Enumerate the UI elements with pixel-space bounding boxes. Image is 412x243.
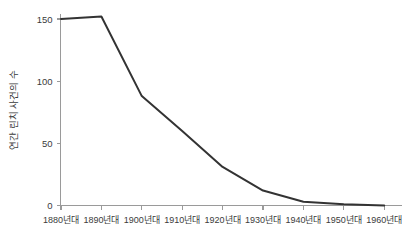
x-tick-label: 1930년대	[245, 215, 281, 225]
x-tick-label: 1910년대	[164, 215, 200, 225]
y-tick-label: 50	[42, 138, 53, 149]
x-tick-label: 1920년대	[205, 215, 241, 225]
x-tick-label: 1940년대	[285, 215, 321, 225]
chart-canvas: 050100150 연간 린치 사건의 수 1880년대1890년대1900년대…	[0, 0, 412, 243]
y-tick-label: 0	[47, 200, 52, 211]
y-axis-title: 연간 린치 사건의 수	[8, 70, 19, 150]
line-chart: 050100150 연간 린치 사건의 수 1880년대1890년대1900년대…	[0, 0, 412, 243]
x-tick-label: 1950년대	[326, 215, 362, 225]
x-tick-label: 1880년대	[43, 215, 79, 225]
x-tick-label: 1890년대	[83, 215, 119, 225]
y-tick-label: 150	[37, 14, 53, 25]
x-tick-label: 1960년대	[366, 215, 402, 225]
chart-background	[0, 0, 412, 243]
x-tick-label: 1900년대	[124, 215, 160, 225]
y-tick-label: 100	[37, 76, 53, 87]
